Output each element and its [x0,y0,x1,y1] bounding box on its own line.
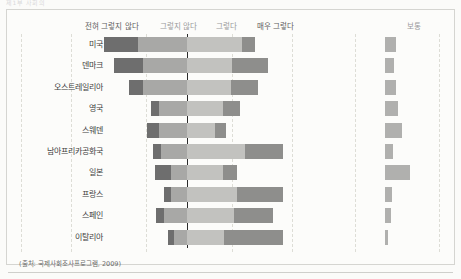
bar-segment-1 [151,101,159,116]
row-label-5: 스웨덴 [82,124,103,135]
bar-segment-1 [155,165,171,180]
chart-row: 덴마크 [7,55,456,76]
bar-segment-2 [171,187,187,202]
bar-segment-1 [129,80,144,95]
row-label-7: 일본 [89,166,103,177]
row-label-4: 영국 [89,102,103,113]
row-label-3: 오스트레일리아 [54,81,103,92]
bar-segment-3 [187,80,231,95]
bar-track [103,101,365,116]
legend-item-strongly-agree: 매우 그렇다 [257,20,294,31]
neutral-bar [385,37,396,52]
bar-segment-2 [164,208,187,223]
row-label-8: 프랑스 [82,188,103,199]
bar-segment-2 [138,37,187,52]
neutral-bar-track [385,101,453,116]
bar-track [103,37,365,52]
source-note: (출처: 국제사회조사프로그램, 2009) [19,258,121,268]
bar-segment-1 [164,187,170,202]
neutral-bar [385,208,391,223]
bar-segment-1 [104,37,138,52]
row-label-2: 덴마크 [82,59,103,70]
bar-segment-2 [174,230,187,245]
row-label-9: 스페인 [82,209,103,220]
neutral-bar-track [385,208,453,223]
chart-row: 남아프리카공화국 [7,141,456,162]
bar-track [103,208,365,223]
bar-track [103,165,365,180]
neutral-bar [385,187,392,202]
bar-segment-4 [232,58,268,73]
bar-rows: 미국덴마크오스트레일리아영국스웨덴남아프리카공화국일본프랑스스페인이탈리아 [7,34,456,248]
chart-row: 스웨덴 [7,120,456,141]
row-label-10: 이탈리아 [75,231,103,242]
bar-segment-4 [234,208,273,223]
header-ghost-text: 제1부 사회의 [6,0,45,7]
neutral-bar-track [385,187,453,202]
bar-segment-3 [187,230,224,245]
neutral-bar [385,101,398,116]
bar-segment-1 [114,58,143,73]
bar-segment-2 [159,101,187,116]
bar-segment-2 [161,144,187,159]
legend-item-strongly-disagree: 전혀 그렇지 않다 [85,20,139,31]
bar-segment-1 [147,123,160,138]
bar-segment-1 [153,144,161,159]
chart-row: 영국 [7,98,456,119]
bar-segment-4 [231,80,259,95]
bar-segment-3 [187,37,242,52]
bar-segment-2 [143,80,187,95]
neutral-bar [385,58,394,73]
chart-row: 스페인 [7,205,456,226]
bar-segment-2 [143,58,187,73]
bar-track [103,144,365,159]
bar-segment-1 [168,230,174,245]
bar-segment-3 [187,187,237,202]
page-header-strip: 제1부 사회의 [0,0,461,9]
neutral-bar [385,144,393,159]
neutral-bar-track [385,165,453,180]
neutral-bar-track [385,123,453,138]
bar-track [103,230,365,245]
bar-segment-2 [171,165,187,180]
bar-segment-4 [237,187,282,202]
neutral-bar-track [385,230,453,245]
legend: 전혀 그렇지 않다 그렇지 않다 그렇다 매우 그렇다 보통 [7,20,456,34]
bar-segment-4 [223,101,241,116]
bar-segment-3 [187,101,223,116]
neutral-bar [385,80,396,95]
chart-page: 제1부 사회의 전혀 그렇지 않다 그렇지 않다 그렇다 매우 그렇다 보통 미… [0,0,461,279]
bar-segment-3 [187,58,232,73]
bar-segment-3 [187,208,234,223]
neutral-bar [385,230,388,245]
bar-segment-4 [224,230,282,245]
neutral-bar-track [385,37,453,52]
bar-track [103,187,365,202]
legend-item-neutral: 보통 [407,20,421,31]
neutral-bar [385,123,402,138]
row-label-6: 남아프리카공화국 [47,145,103,156]
legend-item-agree: 그렇다 [216,20,237,31]
neutral-bar-track [385,58,453,73]
chart-row: 미국 [7,34,456,55]
bar-segment-4 [223,165,238,180]
page-bottom-rule [8,272,453,273]
neutral-bar-track [385,144,453,159]
chart-row: 프랑스 [7,184,456,205]
bar-track [103,80,365,95]
bar-segment-3 [187,123,215,138]
bar-segment-1 [156,208,164,223]
bar-track [103,58,365,73]
bar-segment-2 [159,123,187,138]
chart-row: 일본 [7,162,456,183]
bar-segment-4 [215,123,226,138]
neutral-bar-track [385,80,453,95]
bar-segment-4 [245,144,282,159]
bar-track [103,123,365,138]
chart-frame: 전혀 그렇지 않다 그렇지 않다 그렇다 매우 그렇다 보통 미국덴마크오스트레… [6,9,455,265]
chart-row: 오스트레일리아 [7,77,456,98]
chart-row: 이탈리아 [7,227,456,248]
bar-segment-3 [187,144,245,159]
row-label-1: 미국 [89,38,103,49]
bar-segment-4 [242,37,255,52]
